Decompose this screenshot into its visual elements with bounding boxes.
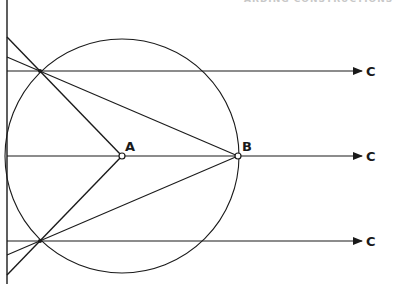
- label-b: B: [242, 139, 252, 154]
- point-top-intersection: [38, 69, 42, 73]
- label-c-top: C: [366, 64, 376, 79]
- label-c-bottom: C: [366, 234, 376, 249]
- point-b-marker: [235, 153, 241, 159]
- line-a-to-bottom-extended: [7, 156, 122, 275]
- label-c-middle: C: [366, 149, 376, 164]
- header-partial-text: ARDING CONSTRUCTIONS: [244, 0, 393, 4]
- line-a-to-top-extended: [7, 37, 122, 156]
- label-a: A: [125, 139, 135, 154]
- point-bottom-intersection: [38, 239, 42, 243]
